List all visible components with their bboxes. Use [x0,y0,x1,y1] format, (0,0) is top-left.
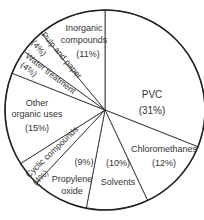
label-propylene-pct: (9%) [74,157,93,167]
label-inorganic-line2: compounds [61,35,108,45]
label-other: Other [26,98,49,108]
label-other-line2: organic uses [11,109,63,119]
label-solvents: Solvents [101,177,136,187]
label-propylene: Propylene [52,174,93,184]
label-chloromethanes: Chloromethanes [131,144,198,154]
label-chloromethanes-pct: (12%) [152,158,176,168]
label-pvc: PVC [142,89,163,100]
label-inorganic: Inorganic [65,23,103,33]
pie-chart: PVC (31%) Chloromethanes (12%) (10%) Sol… [0,0,204,220]
label-other-pct: (15%) [25,123,49,133]
label-pvc-pct: (31%) [139,105,166,116]
label-inorganic-pct: (11%) [76,49,99,59]
label-solvents-pct: (10%) [106,158,130,168]
label-propylene-line2: oxide [61,186,83,196]
